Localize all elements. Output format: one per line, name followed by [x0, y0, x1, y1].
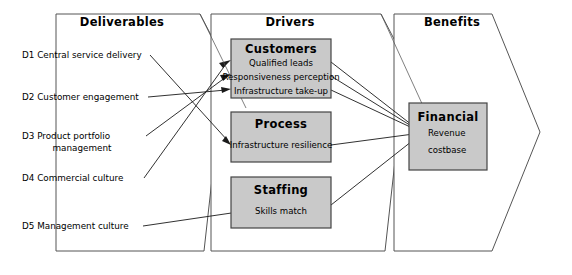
driver-item-responsiveness-perception: Responsiveness perception — [222, 72, 339, 82]
panel-title-deliverables: Deliverables — [80, 15, 164, 29]
driver-item-skills-match: Skills match — [255, 206, 307, 216]
benefit-item-costbase: costbase — [428, 145, 466, 155]
driver-item-infrastructure-resilience: Infrastructure resilience — [230, 140, 333, 150]
driver-box-customers-title: Customers — [245, 42, 317, 56]
benefit-item-revenue: Revenue — [428, 128, 465, 138]
benefit-box-financial-title: Financial — [417, 110, 478, 124]
deliverable-item-d3[interactable]: D3 Product portfolio — [22, 131, 110, 141]
deliverable-item-d5[interactable]: D5 Management culture — [22, 221, 129, 231]
deliverable-item-d2[interactable]: D2 Customer engagement — [22, 92, 139, 102]
driver-item-infrastructure-take-up: Infrastructure take-up — [234, 86, 328, 96]
deliverable-item-d1[interactable]: D1 Central service delivery — [22, 50, 142, 60]
driver-box-process-title: Process — [255, 117, 307, 131]
deliverable-item-d4[interactable]: D4 Commercial culture — [22, 173, 123, 183]
deliverable-item-d3-line2: management — [53, 143, 112, 153]
panel-title-benefits: Benefits — [424, 15, 480, 29]
driver-item-qualified-leads: Qualified leads — [249, 58, 314, 68]
driver-box-staffing-title: Staffing — [254, 183, 308, 197]
value-chain-diagram: Deliverables Drivers Benefits Customers — [0, 0, 572, 275]
panel-title-drivers: Drivers — [265, 15, 314, 29]
diagram-canvas: Deliverables Drivers Benefits Customers — [0, 0, 572, 275]
